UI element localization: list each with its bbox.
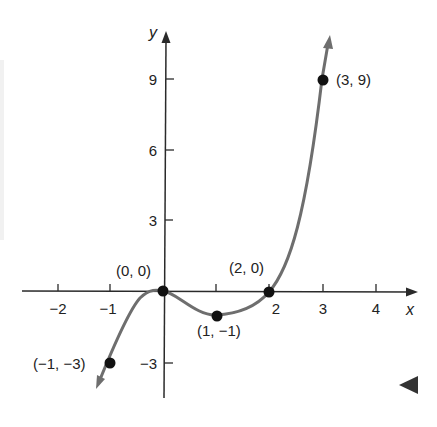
curve-end-arrow-icon <box>323 35 333 49</box>
point-label: (2, 0) <box>229 259 264 276</box>
point-label: (−1, −3) <box>33 355 86 372</box>
cubic-function-graph: −2 −1 2 3 4 x 9 6 3 −3 y (−1, −3) (0, 0)… <box>0 0 437 427</box>
y-tick-label: −3 <box>140 355 157 372</box>
point-marker <box>318 75 329 86</box>
y-tick-label: 9 <box>149 71 157 88</box>
point-label: (1, −1) <box>197 322 241 339</box>
x-tick-label: 2 <box>272 300 280 317</box>
point-label: (3, 9) <box>336 71 371 88</box>
y-axis: 9 6 3 −3 y <box>140 24 174 398</box>
x-tick-label: −1 <box>99 300 116 317</box>
y-axis-arrow-icon <box>162 31 171 43</box>
x-tick-label: −2 <box>49 300 66 317</box>
point-marker <box>158 286 169 297</box>
point-marker <box>105 358 116 369</box>
y-axis-label: y <box>148 24 158 41</box>
point-marker <box>264 287 275 298</box>
y-tick-label: 6 <box>149 142 157 159</box>
x-axis-arrow-icon <box>406 288 418 297</box>
y-tick-label: 3 <box>149 212 157 229</box>
curve-start-arrow-icon <box>96 375 105 389</box>
end-marker-triangle-icon <box>399 376 418 394</box>
x-axis-label: x <box>405 301 415 318</box>
x-tick-label: 4 <box>372 300 380 317</box>
labeled-points: (−1, −3) (0, 0) (1, −1) (2, 0) (3, 9) <box>33 71 371 372</box>
point-marker <box>212 311 223 322</box>
x-tick-label: 3 <box>319 300 327 317</box>
point-label: (0, 0) <box>116 262 151 279</box>
